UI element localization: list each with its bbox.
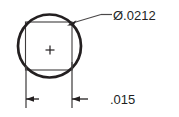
dimension-arrow-left-icon <box>26 96 39 102</box>
drawing-svg: Ø.0212 .015 <box>0 0 179 117</box>
inscribed-square <box>26 22 73 70</box>
diameter-leader-line <box>67 15 112 26</box>
center-crosshair-icon <box>46 46 55 55</box>
dimension-arrow-right-icon <box>72 96 88 102</box>
width-dimension-label: .015 <box>110 92 135 107</box>
technical-drawing-canvas: Ø.0212 .015 <box>0 0 179 117</box>
diameter-callout-label: Ø.0212 <box>113 8 156 23</box>
